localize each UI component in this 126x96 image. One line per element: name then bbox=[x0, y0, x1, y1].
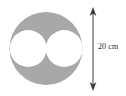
dimension-label: 20 cm bbox=[98, 42, 118, 52]
geometry-figure: 20 cm bbox=[0, 0, 126, 96]
inner-circle-right bbox=[46, 30, 83, 67]
inner-circle-left bbox=[10, 30, 47, 67]
